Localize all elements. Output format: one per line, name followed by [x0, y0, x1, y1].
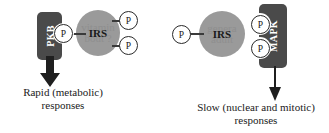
slow-response-caption: Slow (nuclear and mitotic) responses	[183, 101, 329, 127]
right-phospho-docking-circle-1[interactable]: P	[251, 15, 270, 34]
rapid-response-caption: Rapid (metabolic) responses	[2, 86, 124, 112]
right-irs-ellipse[interactable]: genera adult IRS	[199, 11, 245, 57]
right-phospho-docking-circle-2[interactable]: P	[251, 39, 270, 58]
right-irs-label: IRS	[199, 28, 245, 40]
left-phospho-docking-circle[interactable]: P	[54, 24, 73, 43]
left-phospho-circle-2[interactable]: P	[119, 36, 138, 55]
slow-response-arrow	[265, 66, 285, 102]
rapid-response-arrow	[39, 56, 61, 88]
left-phospho-circle-1[interactable]: P	[119, 11, 138, 30]
right-phospho-upstream-circle[interactable]: P	[172, 25, 191, 44]
signalling-pathway-figure: PKB vitamin bout ? IRS P P P Rapid (meta…	[0, 0, 329, 133]
